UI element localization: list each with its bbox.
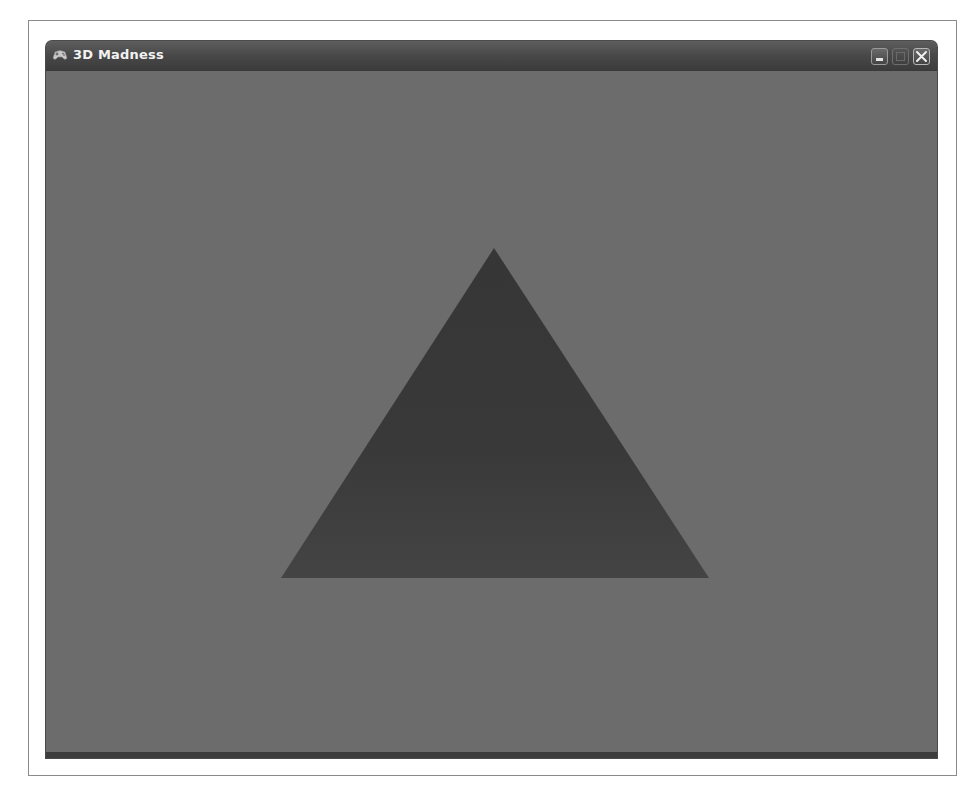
scene-overlay [0, 0, 979, 789]
triangle-shape [281, 248, 709, 578]
